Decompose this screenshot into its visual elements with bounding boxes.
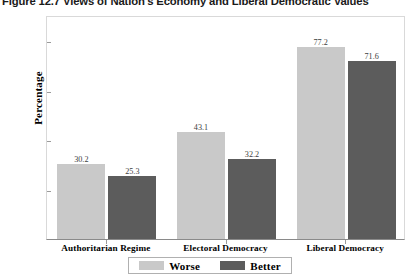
legend-swatch-icon: [220, 261, 245, 270]
bar-value-label: 32.2: [222, 150, 282, 159]
legend-label: Worse: [169, 260, 200, 272]
bar-better-2: [348, 61, 396, 239]
plot-area: 20406080 30.225.343.132.277.271.6: [46, 16, 405, 240]
legend-label: Better: [250, 260, 281, 272]
bar-worse-0: [57, 164, 105, 239]
bar-value-label: 71.6: [342, 52, 402, 61]
bar-value-label: 30.2: [51, 155, 111, 164]
x-axis-category-label: Liberal Democracy: [265, 243, 415, 253]
bar-worse-2: [297, 47, 345, 239]
bar-value-label: 77.2: [291, 38, 351, 47]
legend-item-worse[interactable]: Worse: [139, 260, 200, 272]
bar-worse-1: [177, 132, 225, 239]
figure-container: Figure 12.7 Views of Nation's Economy an…: [0, 0, 415, 277]
legend-swatch-icon: [139, 261, 164, 270]
y-axis-tick-mark: [47, 191, 51, 192]
y-axis-tick-mark: [47, 141, 51, 142]
bar-better-1: [228, 159, 276, 239]
y-axis-title: Percentage: [32, 38, 44, 158]
bar-better-0: [108, 176, 156, 239]
page-title: Figure 12.7 Views of Nation's Economy an…: [2, 0, 415, 7]
y-axis-tick-mark: [47, 42, 51, 43]
x-axis-tick-mark: [345, 240, 346, 244]
legend-item-better[interactable]: Better: [220, 260, 281, 272]
bar-value-label: 43.1: [171, 123, 231, 132]
legend: WorseBetter: [128, 257, 292, 274]
x-axis-tick-mark: [226, 240, 227, 244]
x-axis-tick-mark: [106, 240, 107, 244]
y-axis-tick-mark: [47, 92, 51, 93]
bar-value-label: 25.3: [102, 167, 162, 176]
